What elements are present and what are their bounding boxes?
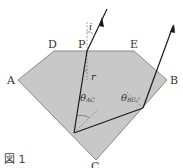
arrow-head-exit: [170, 24, 175, 33]
diamond-refraction-diagram: D P E A B C i r θAC θBC: [0, 0, 183, 168]
label-c: C: [91, 160, 99, 168]
angle-arc-i: [87, 32, 93, 34]
label-a: A: [6, 74, 16, 87]
arrow-head-incident: [99, 17, 104, 27]
label-p: P: [78, 38, 86, 51]
label-b: B: [170, 74, 178, 87]
label-e: E: [130, 38, 138, 51]
diamond-shape: [18, 51, 167, 160]
label-d: D: [48, 38, 57, 51]
figure-caption: 図 1: [4, 150, 26, 166]
label-angle-i: i: [89, 21, 92, 32]
